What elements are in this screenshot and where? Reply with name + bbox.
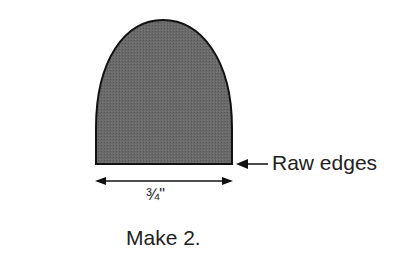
arch-shape (96, 20, 232, 164)
template-diagram (0, 0, 399, 263)
instruction-label: Make 2. (126, 226, 201, 250)
width-dimension-arrow-icon (95, 177, 233, 185)
width-dimension-label: ¾" (146, 186, 165, 204)
raw-edge-arrow-icon (236, 159, 268, 169)
raw-edges-label: Raw edges (272, 151, 377, 175)
